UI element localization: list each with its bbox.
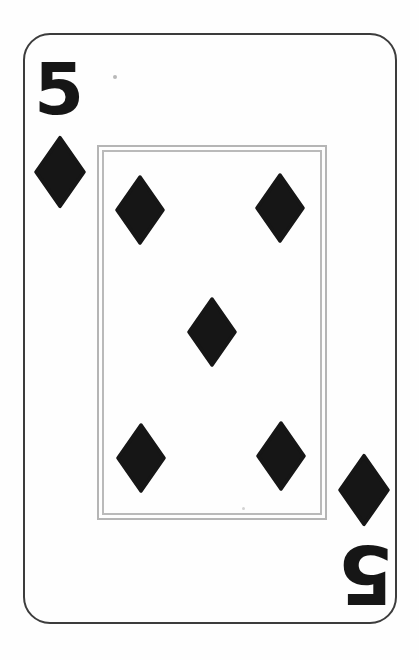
diamond-pip-icon-bottom-right	[256, 421, 306, 491]
card-rank-bottom-right: 5	[334, 541, 398, 605]
diamond-pip-icon-top-right	[255, 173, 305, 243]
diamond-suit-icon-bottom-right	[338, 453, 390, 527]
scanned-page: 5	[0, 0, 419, 660]
card-rank-top-left: 5	[27, 57, 91, 121]
diamond-pip-icon-center	[187, 297, 237, 367]
diamond-pip-icon-top-left	[115, 175, 165, 245]
scan-speckle	[113, 75, 117, 79]
diamond-suit-icon-top-left	[34, 133, 86, 211]
diamond-pip-icon-bottom-left	[116, 423, 166, 493]
playing-card-5-of-diamonds[interactable]: 5	[23, 33, 397, 624]
scan-speckle	[242, 507, 245, 510]
